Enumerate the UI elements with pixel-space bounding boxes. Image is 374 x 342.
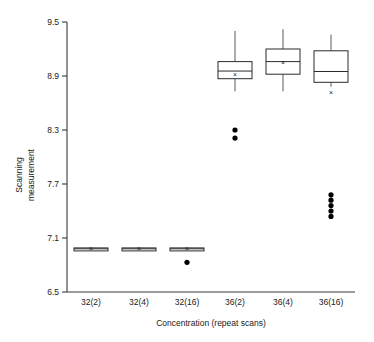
y-axis-title-line2: measurement (26, 148, 36, 201)
y-tick-label-4: 8.9 (47, 71, 59, 81)
outlier-point-0 (232, 127, 237, 132)
mean-marker: × (329, 89, 333, 96)
outlier-point-1 (232, 136, 237, 141)
x-tick-label-0: 32(2) (81, 297, 101, 307)
mean-marker: × (89, 245, 93, 252)
x-axis-title: Concentration (repeat scans) (156, 318, 266, 328)
y-tick-label-2: 7.7 (47, 179, 59, 189)
x-tick-label-5: 36(16) (319, 297, 344, 307)
mean-marker: × (137, 245, 141, 252)
boxplot-32(4): × (122, 245, 156, 252)
mean-marker: × (185, 245, 189, 252)
outlier-point-4 (328, 214, 333, 219)
outlier-point-2 (328, 203, 333, 208)
outlier-point-0 (184, 260, 189, 265)
outlier-point-0 (328, 192, 333, 197)
outlier-point-1 (328, 198, 333, 203)
boxplot-32(2): × (74, 245, 108, 252)
boxplot-36(2): × (218, 31, 252, 141)
boxplot-chart: 6.57.17.78.38.99.532(2)32(4)32(16)36(2)3… (0, 0, 374, 342)
outlier-point-3 (328, 208, 333, 213)
boxplot-36(16): × (314, 35, 348, 219)
x-tick-label-4: 36(4) (273, 297, 293, 307)
x-tick-label-3: 36(2) (225, 297, 245, 307)
box-body (314, 51, 348, 83)
y-tick-label-0: 6.5 (47, 287, 59, 297)
chart-canvas: 6.57.17.78.38.99.532(2)32(4)32(16)36(2)3… (0, 0, 374, 342)
y-axis-title-line1: Scanning (14, 157, 24, 193)
y-tick-label-1: 7.1 (47, 233, 59, 243)
x-tick-label-2: 32(16) (175, 297, 200, 307)
mean-marker: × (281, 59, 285, 66)
boxplot-32(16): × (170, 245, 204, 265)
y-tick-label-5: 9.5 (47, 17, 59, 27)
y-tick-label-3: 8.3 (47, 125, 59, 135)
x-tick-label-1: 32(4) (129, 297, 149, 307)
mean-marker: × (233, 71, 237, 78)
boxplot-36(4): × (266, 29, 300, 91)
